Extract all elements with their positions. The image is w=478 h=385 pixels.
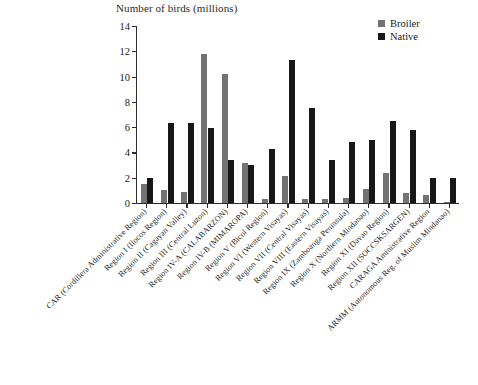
plot-area: 02468101214 [136,26,459,203]
bar-native [168,123,174,203]
y-tick-label: 6 [125,122,130,133]
y-tick-mark [132,102,136,103]
bar-broiler [282,176,288,203]
bar-native [349,142,355,203]
bar-native [248,165,254,203]
bar-broiler [383,173,389,203]
bar-broiler [201,54,207,203]
bar-native [188,123,194,203]
y-tick-label: 0 [125,198,130,209]
bar-native [450,178,456,203]
y-tick-label: 14 [120,21,131,32]
y-tick-label: 8 [125,96,130,107]
bar-native [369,140,375,203]
y-tick-label: 4 [125,147,130,158]
bar-broiler [181,192,187,203]
y-tick-label: 12 [120,46,131,57]
y-tick-label: 2 [125,172,130,183]
bar-broiler [242,163,248,203]
y-tick-mark [132,178,136,179]
bars-layer [137,26,459,203]
bar-broiler [403,193,409,203]
bar-chart: Number of birds (millions) BroilerNative… [0,0,478,385]
bar-broiler [363,189,369,203]
bar-native [309,108,315,203]
y-tick-mark [132,77,136,78]
bar-native [147,178,153,203]
y-tick-mark [132,51,136,52]
bar-native [430,178,436,203]
bar-native [410,130,416,203]
bar-broiler [222,74,228,203]
chart-title: Number of birds (millions) [116,2,237,14]
bar-native [390,121,396,203]
y-tick-mark [132,127,136,128]
x-axis-labels: CAR (Cordillera Administrative Region)Re… [136,203,476,383]
y-tick-label: 10 [120,71,131,82]
bar-broiler [423,195,429,203]
bar-native [228,160,234,203]
bar-broiler [161,190,167,203]
bar-native [269,149,275,203]
y-tick-mark [132,26,136,27]
y-tick-mark [132,152,136,153]
bar-native [289,60,295,203]
bar-native [208,128,214,203]
bar-broiler [141,184,147,203]
bar-native [329,160,335,203]
